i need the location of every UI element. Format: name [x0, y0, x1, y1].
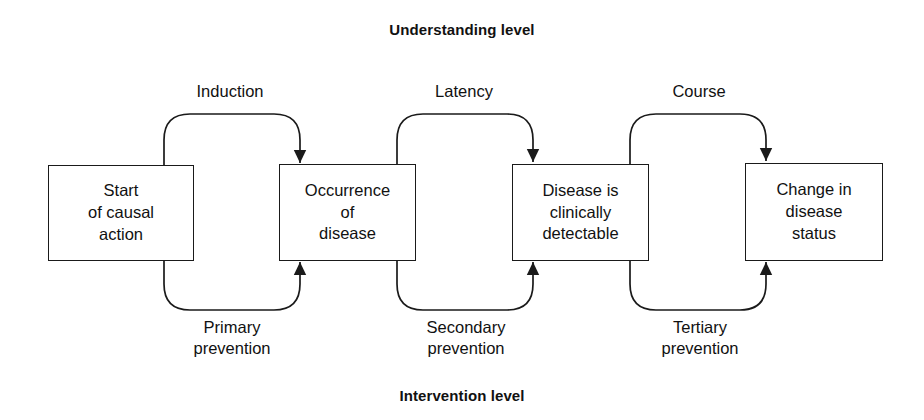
primary-prevention-connector-arrowhead	[294, 262, 306, 275]
induction-connector-arrowhead	[294, 150, 306, 163]
edge-label-induction: Induction	[120, 81, 340, 102]
node-disease-is-clinically-detectable: Disease is clinically detectable	[512, 164, 649, 261]
diagram-canvas: Understanding level Start of causal acti…	[0, 0, 924, 420]
page-title-intervention-level: Intervention level	[0, 387, 924, 404]
edge-label-secondary-prevention: Secondary prevention	[356, 317, 576, 360]
node-change-in-disease-status: Change in disease status	[745, 163, 883, 261]
edge-label-latency: Latency	[354, 81, 574, 102]
secondary-prevention-connector-arrowhead	[527, 262, 539, 275]
edge-label-primary-prevention: Primary prevention	[122, 317, 342, 360]
node-start-of-causal-action: Start of causal action	[48, 165, 194, 261]
edge-label-course: Course	[589, 81, 809, 102]
tertiary-prevention-connector-arrowhead	[760, 262, 772, 275]
node-occurrence-of-disease: Occurrence of disease	[279, 164, 416, 261]
course-connector-arrowhead	[760, 148, 772, 161]
edge-label-tertiary-prevention: Tertiary prevention	[590, 317, 810, 360]
latency-connector-arrowhead	[527, 149, 539, 162]
